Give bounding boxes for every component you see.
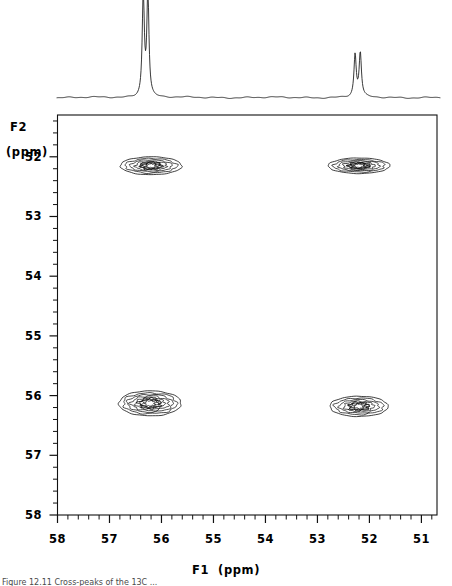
f2-tick-label-56: 56 — [14, 389, 42, 403]
f1-tick-label-51: 51 — [401, 532, 441, 546]
f1-tick-label-56: 56 — [141, 532, 181, 546]
f2-tick-label-58: 58 — [14, 508, 42, 522]
f1-tick-label-52: 52 — [349, 532, 389, 546]
cross-peak-top-left — [120, 157, 182, 175]
f1-tick-label-55: 55 — [193, 532, 233, 546]
f2-tick-label-52: 52 — [14, 150, 42, 164]
cross-peak-top-right — [328, 158, 390, 174]
f2-tick-label-54: 54 — [14, 269, 42, 283]
f2-tick-label-53: 53 — [14, 209, 42, 223]
cross-peak-bottom-right — [330, 396, 388, 417]
figure-caption: Figure 12.11 Cross-peaks of the 13C ... — [2, 578, 450, 586]
f1-tick-label-54: 54 — [245, 532, 285, 546]
f1-axis-label-unit: (ppm) — [218, 563, 260, 577]
f1-axis-label: F1(ppm) — [0, 563, 452, 577]
f1-tick-label-57: 57 — [89, 532, 129, 546]
f1-tick-label-58: 58 — [38, 532, 78, 546]
cross-peak-bottom-left — [118, 391, 181, 416]
f1-tick-label-53: 53 — [297, 532, 337, 546]
contour-level-2 — [125, 158, 179, 173]
contour-level-2 — [333, 398, 384, 415]
f2-tick-label-57: 57 — [14, 448, 42, 462]
nmr-figure: F2 (ppm) F1(ppm) 52535455565758 58575655… — [0, 0, 452, 586]
f2-axis-label-name: F2 — [10, 120, 27, 134]
f1-axis-label-name: F1 — [192, 563, 209, 577]
f2-tick-label-55: 55 — [14, 329, 42, 343]
plot-frame — [58, 115, 438, 515]
contour-plot-svg — [0, 0, 452, 586]
